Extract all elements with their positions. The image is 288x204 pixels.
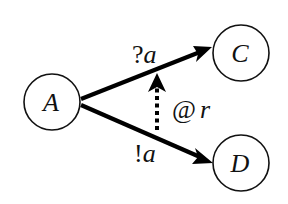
diagram-canvas: A C D ?a !a @r [0, 0, 288, 204]
node-c: C [213, 25, 269, 81]
edge-label-var: a [143, 139, 156, 168]
node-d: D [213, 135, 269, 191]
node-c-label: C [231, 39, 249, 68]
node-a: A [24, 74, 80, 130]
edge-label-prefix: ! [134, 139, 143, 168]
edge-label-var: r [200, 95, 211, 124]
edge-label-var: a [144, 40, 157, 69]
edge-label-receive-a: ?a [132, 40, 157, 69]
edge-label-prefix: ? [132, 40, 144, 69]
edge-label-send-a: !a [134, 139, 156, 168]
edge-dashed-r [148, 73, 166, 130]
node-a-label: A [41, 88, 59, 117]
node-d-label: D [230, 149, 250, 178]
edge-label-at-r: @r [172, 95, 211, 124]
edge-label-prefix: @ [172, 95, 196, 124]
